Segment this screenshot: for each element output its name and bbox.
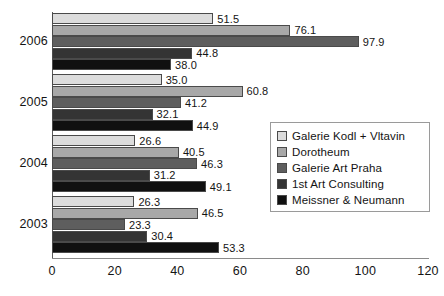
bar	[52, 74, 162, 85]
x-tick-label: 60	[220, 264, 260, 278]
bar-value-label: 35.0	[166, 74, 188, 85]
bar	[52, 147, 179, 158]
bar-row: 23.3	[0, 219, 444, 230]
bar	[52, 59, 171, 70]
x-tick-label: 0	[32, 264, 72, 278]
legend-swatch-icon	[277, 163, 287, 173]
bar-value-label: 76.1	[294, 25, 316, 36]
bar	[52, 120, 193, 131]
bar	[52, 36, 359, 47]
bar-value-label: 30.4	[151, 231, 173, 242]
bar-row: 76.1	[0, 25, 444, 36]
x-tick-label: 100	[345, 264, 385, 278]
x-tick-label: 80	[283, 264, 323, 278]
bar-value-label: 31.2	[154, 170, 176, 181]
x-tick-label: 120	[408, 264, 444, 278]
bar-value-label: 53.3	[223, 242, 245, 253]
bar-value-label: 32.1	[157, 109, 179, 120]
bar-row: 35.0	[0, 74, 444, 85]
legend-label: Dorotheum	[292, 146, 350, 158]
legend-item: Galerie Art Praha	[277, 160, 429, 176]
bar	[52, 231, 147, 242]
bar	[52, 219, 125, 230]
bar	[52, 86, 243, 97]
bar	[52, 181, 206, 192]
bar-value-label: 26.3	[138, 196, 160, 207]
legend-label: Galerie Kodl + Vltavin	[292, 130, 405, 142]
chart-legend: Galerie Kodl + VltavinDorotheumGalerie A…	[270, 122, 430, 212]
year-label: 2006	[4, 35, 48, 48]
bar-row: 30.4	[0, 231, 444, 242]
x-tick-label: 40	[157, 264, 197, 278]
bar-chart: 51.576.197.944.838.035.060.841.232.144.9…	[0, 0, 444, 296]
bar	[52, 13, 213, 24]
bar-value-label: 44.8	[196, 48, 218, 59]
bar-value-label: 60.8	[247, 86, 269, 97]
bar-row: 51.5	[0, 13, 444, 24]
legend-item: Dorotheum	[277, 144, 429, 160]
bar	[52, 25, 290, 36]
bar-group: 51.576.197.944.838.0	[0, 13, 444, 71]
x-axis-line	[52, 258, 429, 259]
bar-value-label: 26.6	[139, 135, 161, 146]
bar-row: 38.0	[0, 59, 444, 70]
bar-value-label: 46.5	[202, 208, 224, 219]
bar	[52, 242, 219, 253]
bar-value-label: 40.5	[183, 147, 205, 158]
year-label: 2004	[4, 157, 48, 170]
legend-swatch-icon	[277, 179, 287, 189]
bar-value-label: 23.3	[129, 219, 151, 230]
bar-value-label: 51.5	[217, 13, 239, 24]
bar	[52, 135, 135, 146]
legend-item: Meissner & Neumann	[277, 192, 429, 208]
bar	[52, 170, 150, 181]
bar	[52, 196, 134, 207]
bar-row: 53.3	[0, 242, 444, 253]
bar	[52, 109, 153, 120]
bar-value-label: 97.9	[363, 36, 385, 47]
year-label: 2003	[4, 218, 48, 231]
bar-value-label: 44.9	[197, 120, 219, 131]
bar-value-label: 46.3	[201, 158, 223, 169]
bar	[52, 158, 197, 169]
legend-swatch-icon	[277, 131, 287, 141]
bar	[52, 97, 181, 108]
legend-label: 1st Art Consulting	[292, 178, 384, 190]
bar	[52, 48, 192, 59]
legend-swatch-icon	[277, 195, 287, 205]
legend-label: Galerie Art Praha	[292, 162, 382, 174]
legend-label: Meissner & Neumann	[292, 194, 404, 206]
bar	[52, 208, 198, 219]
legend-item: 1st Art Consulting	[277, 176, 429, 192]
bar-row: 97.9	[0, 36, 444, 47]
x-tick-label: 20	[95, 264, 135, 278]
bar-row: 32.1	[0, 109, 444, 120]
bar-row: 60.8	[0, 86, 444, 97]
bar-row: 41.2	[0, 97, 444, 108]
bar-value-label: 49.1	[210, 181, 232, 192]
bar-value-label: 41.2	[185, 97, 207, 108]
bar-value-label: 38.0	[175, 59, 197, 70]
legend-items: Galerie Kodl + VltavinDorotheumGalerie A…	[277, 128, 429, 208]
year-label: 2005	[4, 96, 48, 109]
bar-row: 44.8	[0, 48, 444, 59]
legend-swatch-icon	[277, 147, 287, 157]
legend-item: Galerie Kodl + Vltavin	[277, 128, 429, 144]
